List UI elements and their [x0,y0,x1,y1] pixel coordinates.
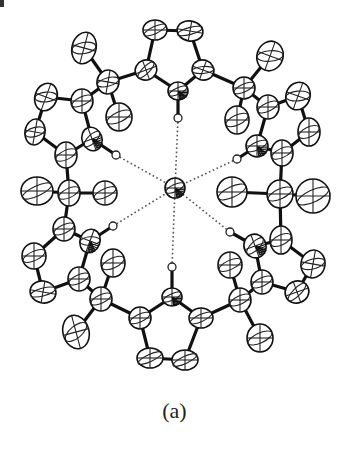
carbon-atom [256,95,279,119]
carbon-atom [70,89,93,113]
hydrogen-bond [172,188,175,267]
carbon-atom [143,20,168,40]
carbon-atom [58,312,94,352]
hydrogen-atom [168,263,176,271]
figure-caption: (a) [0,398,349,424]
carbon-atom [270,140,294,166]
carbon-atom [269,226,293,254]
carbon-atom [30,80,62,115]
carbon-atom [28,279,58,305]
carbon-atom [67,29,101,67]
nitrogen-atom [168,82,189,100]
carbon-atom [281,78,315,113]
ortep-molecular-structure [0,0,349,453]
carbon-atom [232,77,255,99]
carbon-atom [281,277,312,306]
nitrogen-atom [240,231,270,262]
hydrogen-atom [174,114,182,122]
carbon-atom [295,179,331,213]
carbon-atom [21,243,47,269]
hydrogen-atom [109,222,117,230]
nitrogen-atom [245,135,268,157]
carbon-atom [175,19,205,43]
hydrogen-bond [113,188,175,226]
carbon-atom [216,177,248,207]
carbon-atom [217,252,243,278]
carbon-atom [250,270,273,294]
central-atom [164,178,185,198]
carbon-atom [266,180,294,208]
carbon-atom [67,267,90,291]
carbon-atom [52,217,75,241]
carbon-atom [105,103,133,131]
carbon-atom [297,118,321,146]
carbon-atom [128,307,151,329]
carbon-atom [20,177,53,205]
hydrogen-atom [112,151,120,159]
carbon-atom [22,117,48,146]
carbon-atom [94,68,121,96]
carbon-atom [137,348,164,368]
nitrogen-atom [162,288,183,306]
carbon-atom [228,288,251,312]
central-atom [164,178,185,198]
carbon-atom [89,287,112,311]
nitrogen-atom [78,124,107,154]
carbon-atom [92,181,117,205]
nitrogen-atom [76,226,105,256]
carbon-atom [246,324,274,352]
carbon-atom [132,57,160,84]
carbon-atom [54,142,78,168]
carbon-atom [172,350,199,370]
hydrogen-atom [226,228,234,236]
carbon-atom [57,180,81,206]
hydrogen-atom [233,155,241,163]
carbon-atom [189,308,214,328]
carbon-atom [100,249,126,277]
carbon-atom [298,248,328,280]
carbon-atom [224,106,250,134]
